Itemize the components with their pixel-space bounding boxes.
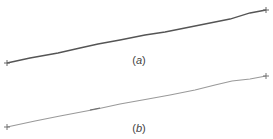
endpoint-cross-icon (263, 73, 269, 79)
diagram-canvas (0, 0, 273, 139)
panel-label-b: (b) (119, 122, 159, 134)
label-close-paren: ) (142, 54, 146, 66)
endpoint-cross-icon (4, 124, 10, 130)
panel-label-a: (a) (119, 54, 159, 66)
endpoint-cross-icon (263, 7, 269, 13)
endpoint-cross-icon (4, 60, 10, 66)
label-close-paren: ) (142, 122, 146, 134)
